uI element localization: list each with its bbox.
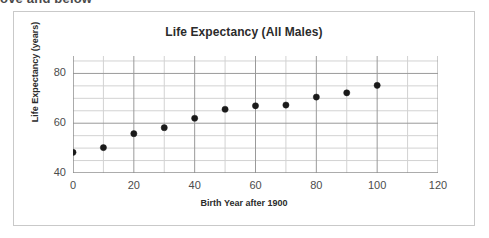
scatter-plot-svg: [73, 56, 438, 173]
y-axis-title: Life Expectancy (years): [30, 7, 40, 137]
chart-title: Life Expectancy (All Males): [14, 25, 474, 39]
x-tick-label: 20: [117, 179, 151, 191]
major-gridlines: [73, 56, 438, 173]
x-axis-title: Birth Year after 1900: [14, 198, 474, 208]
y-tick-label: 40: [40, 166, 66, 178]
chart-container: Life Expectancy (All Males) Life Expecta…: [13, 11, 475, 226]
y-tick-label: 80: [40, 66, 66, 78]
x-tick-label: 0: [56, 179, 90, 191]
x-tick-label: 120: [421, 179, 455, 191]
data-point-series: [73, 82, 380, 155]
plot-area: [73, 56, 438, 173]
x-tick-label: 100: [360, 179, 394, 191]
x-tick-label: 60: [239, 179, 273, 191]
y-tick-label: 60: [40, 116, 66, 128]
x-tick-label: 40: [178, 179, 212, 191]
x-tick-label: 80: [299, 179, 333, 191]
